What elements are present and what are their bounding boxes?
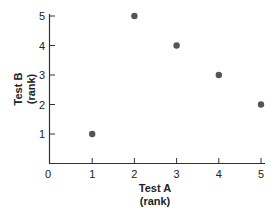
data-point xyxy=(173,42,179,48)
x-tick-label: 1 xyxy=(89,168,95,180)
y-tick-label: 2 xyxy=(39,99,45,111)
x-tick-label: 5 xyxy=(258,168,264,180)
x-axis-title: Test A (rank) xyxy=(139,182,171,207)
y-tick-label: 4 xyxy=(39,40,45,52)
data-points xyxy=(89,13,264,137)
y-axis-title-line1: Test B xyxy=(12,73,24,106)
x-tick-label: 3 xyxy=(174,168,180,180)
y-tick-label: 1 xyxy=(39,128,45,140)
y-tick-label: 5 xyxy=(39,10,45,22)
x-ticks: 012345 xyxy=(45,158,264,180)
data-point xyxy=(258,101,264,107)
x-axis-title-line1: Test A xyxy=(139,182,171,194)
data-point xyxy=(216,72,222,78)
x-tick-label: 0 xyxy=(45,168,51,180)
y-tick-label: 3 xyxy=(39,69,45,81)
scatter-chart: 12345 012345 Test B (rank) Test A (rank) xyxy=(0,0,277,213)
y-axis-title-line2: (rank) xyxy=(25,73,37,104)
data-point xyxy=(131,13,137,19)
x-tick-label: 4 xyxy=(216,168,222,180)
x-tick-label: 2 xyxy=(131,168,137,180)
data-point xyxy=(89,131,95,137)
x-axis-title-line2: (rank) xyxy=(140,195,171,207)
y-axis-title: Test B (rank) xyxy=(12,73,37,106)
y-ticks: 12345 xyxy=(39,10,55,140)
